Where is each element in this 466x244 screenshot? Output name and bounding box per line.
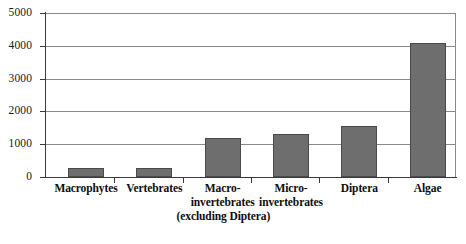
bars-layer bbox=[46, 13, 456, 177]
bar-diptera bbox=[341, 126, 377, 177]
y-axis: 5000 4000 3000 2000 1000 0 bbox=[0, 0, 40, 244]
bar-macrophytes bbox=[68, 168, 104, 178]
y-tick-label-5000: 5000 bbox=[9, 7, 32, 19]
bar-algae bbox=[410, 43, 446, 178]
x-axis-labels: Macrophytes Vertebrates Macro- invertebr… bbox=[46, 181, 456, 244]
bar-macro-invertebrates bbox=[205, 138, 241, 177]
x-label-diptera-line1: Diptera bbox=[341, 182, 378, 194]
x-label-algae: Algae bbox=[382, 181, 466, 195]
x-label-algae-line1: Algae bbox=[414, 182, 442, 194]
y-tick-label-2000: 2000 bbox=[9, 106, 32, 118]
y-tick-label-1000: 1000 bbox=[9, 138, 32, 150]
x-label-vertebrates-line1: Vertebrates bbox=[126, 182, 182, 194]
y-tick-label-0: 0 bbox=[26, 171, 32, 183]
y-tick-label-4000: 4000 bbox=[9, 40, 32, 52]
x-label-micro-invertebrates-line2: invertebrates bbox=[245, 195, 337, 209]
x-label-excluding-diptera-note: (excluding Diptera) bbox=[177, 209, 269, 223]
x-label-macro-invertebrates-line1: Macro- bbox=[205, 182, 241, 194]
bar-chart: 5000 4000 3000 2000 1000 0 Macrophytes bbox=[0, 0, 466, 244]
y-tick-label-3000: 3000 bbox=[9, 73, 32, 85]
x-label-micro-invertebrates-line1: Micro- bbox=[274, 182, 307, 194]
bar-micro-invertebrates bbox=[273, 134, 309, 177]
bar-vertebrates bbox=[136, 168, 172, 178]
